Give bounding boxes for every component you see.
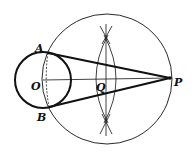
label-o: O [31, 80, 41, 93]
label-a: A [34, 42, 44, 55]
label-p: P [173, 76, 183, 89]
point-p [168, 76, 172, 80]
line-op [43, 78, 170, 80]
geometry-diagram: A B O Q P [0, 0, 195, 156]
label-q: Q [96, 81, 106, 94]
label-b: B [36, 111, 46, 124]
